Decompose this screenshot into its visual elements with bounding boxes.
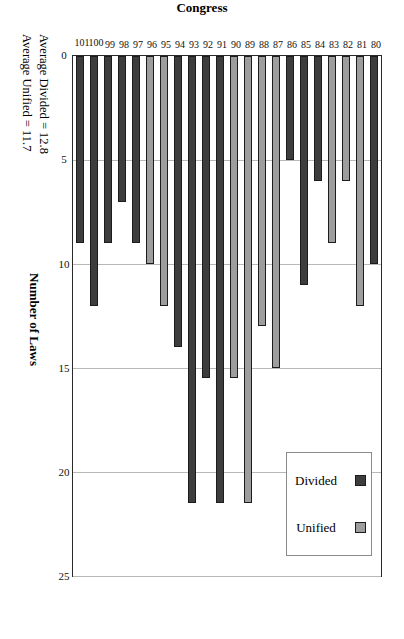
- value-tick-label: 5: [61, 153, 67, 165]
- category-tick-label: 85: [301, 40, 311, 50]
- bar-congress-89[interactable]: [244, 56, 253, 503]
- annotation-average-unified: Average Unified = 11.7: [18, 34, 35, 151]
- category-tick-label: 94: [175, 40, 185, 50]
- category-tick-label: 83: [329, 40, 339, 50]
- category-tick-label: 98: [119, 40, 129, 50]
- bar-congress-81[interactable]: [356, 56, 365, 306]
- category-tick-label: 100: [89, 38, 104, 48]
- category-tick-label: 86: [287, 40, 297, 50]
- bar-slot-89: [241, 56, 255, 576]
- legend-swatch-unified: [355, 522, 366, 533]
- bar-congress-90[interactable]: [230, 56, 239, 378]
- category-tick-label: 90: [231, 40, 241, 50]
- category-tick-label: 95: [161, 40, 171, 50]
- bar-congress-83[interactable]: [328, 56, 337, 243]
- average-annotations: Average Divided = 12.8 Average Unified =…: [18, 34, 52, 154]
- bar-congress-100[interactable]: [90, 56, 99, 306]
- bar-congress-95[interactable]: [160, 56, 169, 306]
- value-tick-label: 25: [59, 569, 70, 581]
- bar-congress-84[interactable]: [314, 56, 323, 181]
- category-tick-label: 88: [259, 40, 269, 50]
- bar-slot-94: [171, 56, 185, 576]
- category-tick-label: 97: [133, 40, 143, 50]
- bar-congress-91[interactable]: [216, 56, 225, 503]
- bar-slot-87: [269, 56, 283, 576]
- category-tick-label: 82: [343, 40, 353, 50]
- value-tick-5: 5: [58, 139, 70, 179]
- bar-congress-88[interactable]: [258, 56, 267, 326]
- bar-slot-91: [213, 56, 227, 576]
- bar-congress-87[interactable]: [272, 56, 281, 368]
- category-tick-label: 101: [75, 38, 90, 48]
- category-tick-label: 81: [357, 40, 367, 50]
- bar-congress-80[interactable]: [370, 56, 379, 264]
- category-tick-label: 99: [105, 40, 115, 50]
- chart-legend: DividedUnified: [286, 452, 372, 556]
- gridline-25: [73, 576, 381, 577]
- category-tick-label: 92: [203, 40, 213, 50]
- category-tick-label: 91: [217, 40, 227, 50]
- bar-slot-97: [129, 56, 143, 576]
- category-axis-title-text: Congress: [176, 0, 227, 16]
- legend-item-unified[interactable]: Unified: [292, 508, 366, 548]
- bar-slot-100: [87, 56, 101, 576]
- bar-congress-94[interactable]: [174, 56, 183, 347]
- category-tick-label: 89: [245, 40, 255, 50]
- bar-slot-96: [143, 56, 157, 576]
- bar-congress-85[interactable]: [300, 56, 309, 285]
- category-tick-label: 84: [315, 40, 325, 50]
- value-tick-label: 20: [59, 465, 70, 477]
- category-tick-label: 93: [189, 40, 199, 50]
- bar-congress-82[interactable]: [342, 56, 351, 181]
- value-tick-10: 10: [58, 243, 70, 283]
- bar-slot-88: [255, 56, 269, 576]
- bar-congress-92[interactable]: [202, 56, 211, 378]
- value-tick-0: 0: [58, 35, 70, 75]
- legend-label-divided: Divided: [295, 473, 337, 489]
- category-axis-title: Congress: [0, 0, 404, 18]
- bar-slot-95: [157, 56, 171, 576]
- category-tick-label: 96: [147, 40, 157, 50]
- bar-slot-98: [115, 56, 129, 576]
- legend-label-unified: Unified: [296, 520, 336, 536]
- category-tick-label: 87: [273, 40, 283, 50]
- bar-congress-101[interactable]: [76, 56, 85, 243]
- value-tick-label: 0: [61, 49, 67, 61]
- value-tick-25: 25: [58, 555, 70, 595]
- bar-slot-90: [227, 56, 241, 576]
- value-tick-15: 15: [58, 347, 70, 387]
- bar-congress-98[interactable]: [118, 56, 127, 202]
- value-tick-label: 15: [59, 361, 70, 373]
- bar-congress-97[interactable]: [132, 56, 141, 243]
- legend-item-divided[interactable]: Divided: [292, 460, 366, 502]
- value-tick-20: 20: [58, 451, 70, 491]
- value-tick-label: 10: [59, 257, 70, 269]
- bar-congress-99[interactable]: [104, 56, 113, 243]
- chart-stage: 0510152025 80818283848586878889909192939…: [0, 0, 404, 639]
- bar-congress-93[interactable]: [188, 56, 197, 503]
- category-tick-label: 80: [371, 40, 381, 50]
- bar-slot-99: [101, 56, 115, 576]
- bar-slot-92: [199, 56, 213, 576]
- annotation-average-divided: Average Divided = 12.8: [35, 34, 52, 154]
- legend-swatch-divided: [355, 475, 366, 486]
- bar-slot-93: [185, 56, 199, 576]
- bar-congress-96[interactable]: [146, 56, 155, 264]
- bar-slot-101: [73, 56, 87, 576]
- bar-congress-86[interactable]: [286, 56, 295, 160]
